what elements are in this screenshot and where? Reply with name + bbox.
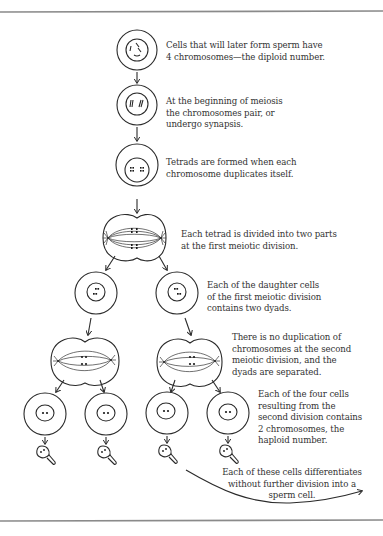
caption-synapsis: At the beginning of meiosis the chromoso…	[166, 96, 283, 131]
arrow-6-7b	[100, 380, 104, 392]
caption-tetrads: Tetrads are formed when each chromosome …	[166, 157, 296, 180]
arrow-4-5a	[106, 256, 115, 270]
meiosis-diagram: Cells that will later form sperm have 4 …	[0, 0, 383, 536]
bottom-rule	[0, 520, 383, 521]
arrow-6-7a	[56, 380, 64, 392]
second-division-cell-left	[51, 338, 119, 385]
sperm-cell-3	[159, 445, 177, 463]
diploid-cell	[117, 30, 157, 70]
synapsis-cell	[117, 85, 157, 125]
caption-first-division: Each tetrad is divided into two parts at…	[181, 229, 337, 252]
sperm-cell-4	[220, 445, 238, 463]
arrow-6-7d	[212, 380, 220, 392]
arrow-5-6a	[88, 318, 91, 335]
caption-sperm: Each of these cells differentiates witho…	[222, 467, 362, 502]
haploid-cell-1	[24, 393, 66, 435]
tetrad-cell	[116, 144, 158, 186]
top-rule	[0, 11, 383, 12]
second-division-cell-right	[157, 339, 222, 386]
haploid-cell-4	[207, 392, 249, 434]
first-division-cell	[103, 215, 166, 261]
arrow-4-5b	[159, 256, 167, 270]
daughter-cell-right	[156, 272, 198, 314]
daughter-cell-left	[75, 272, 117, 314]
sperm-cell-1	[37, 446, 55, 464]
haploid-cell-2	[85, 393, 127, 435]
haploid-cell-3	[146, 392, 188, 434]
caption-diploid: Cells that will later form sperm have 4 …	[166, 40, 325, 63]
diagram-graphics	[0, 0, 383, 536]
caption-haploid: Each of the four cells resulting from th…	[258, 389, 362, 447]
sperm-cell-2	[98, 446, 116, 464]
arrow-5-6b	[185, 318, 191, 335]
caption-daughter-cells: Each of the daughter cells of the first …	[207, 280, 321, 315]
caption-second-division: There is no duplication of chromosomes a…	[232, 332, 351, 378]
